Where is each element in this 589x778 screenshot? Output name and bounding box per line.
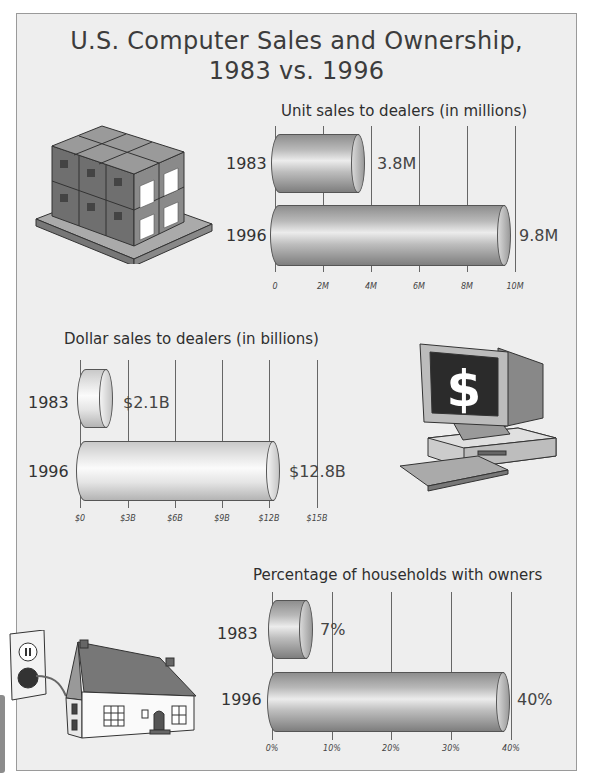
bar-1983 [271, 134, 359, 193]
tick-label: 2M [317, 282, 329, 291]
gridline [317, 360, 318, 508]
computer-dollar-icon: $ [398, 338, 558, 494]
value-label: 9.8M [519, 226, 558, 245]
bar-1996 [270, 205, 505, 266]
bar-1996 [267, 672, 504, 732]
tick-label: $15B [307, 514, 328, 523]
value-label: $2.1B [123, 393, 170, 412]
year-label: 1983 [217, 624, 258, 643]
bar-1983 [268, 600, 307, 659]
svg-text:$: $ [447, 360, 482, 418]
value-label: $12.8B [289, 462, 346, 481]
gridline [511, 592, 512, 740]
tick-label: $9B [214, 514, 230, 523]
year-label: 1983 [28, 393, 69, 412]
value-label: 3.8M [377, 154, 416, 173]
tick-label: 0% [266, 744, 279, 753]
chart-title: Percentage of households with owners [253, 566, 542, 584]
chart-title: Unit sales to dealers (in millions) [281, 102, 527, 120]
tick-label: 8M [461, 282, 473, 291]
tick-label: 10% [323, 744, 341, 753]
bar-1983 [77, 369, 107, 428]
tick-label: 6M [413, 282, 425, 291]
value-label: 7% [320, 620, 345, 639]
title-line-2: 1983 vs. 1996 [16, 56, 577, 86]
tick-label: 10M [506, 282, 523, 291]
tick-label: $3B [120, 514, 136, 523]
tick-label: 30% [442, 744, 460, 753]
year-label: 1996 [226, 226, 267, 245]
gridline [515, 126, 516, 272]
tick-label: 20% [382, 744, 400, 753]
tick-label: 0 [272, 282, 277, 291]
tick-label: 4M [365, 282, 377, 291]
infographic-title: U.S. Computer Sales and Ownership, 1983 … [16, 26, 577, 86]
tick-label: $0 [75, 514, 85, 523]
pallet-boxes-icon [34, 124, 214, 264]
chart-title: Dollar sales to dealers (in billions) [64, 330, 319, 348]
value-label: 40% [517, 690, 553, 709]
title-line-1: U.S. Computer Sales and Ownership, [16, 26, 577, 56]
year-label: 1996 [28, 462, 69, 481]
house-outlet-icon [8, 630, 198, 740]
tick-label: $12B [259, 514, 280, 523]
year-label: 1983 [226, 154, 267, 173]
year-label: 1996 [221, 690, 262, 709]
tick-label: $6B [167, 514, 183, 523]
bar-1996 [76, 441, 274, 501]
tick-label: 40% [502, 744, 520, 753]
side-tab [0, 695, 5, 773]
